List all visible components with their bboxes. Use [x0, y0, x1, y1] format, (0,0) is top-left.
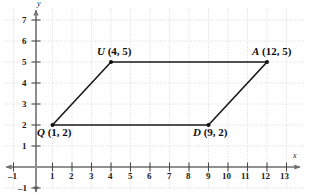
x-tick-label-3: 3 — [89, 172, 94, 181]
x-tick-label-neg1: –1 — [8, 172, 17, 181]
y-tick-label-5: 5 — [22, 58, 27, 67]
parallelogram-quad — [53, 62, 268, 125]
vertex-label-a: A (12, 5) — [252, 46, 291, 57]
x-axis-label: x — [293, 152, 297, 160]
coordinate-plane-svg — [0, 0, 310, 195]
vertex-label-q-name: Q — [37, 126, 45, 138]
y-tick-label-2: 2 — [22, 121, 27, 130]
y-tick-label-7: 7 — [22, 16, 27, 25]
x-tick-label-8: 8 — [186, 172, 191, 181]
x-tick-label-11: 11 — [241, 172, 250, 181]
vertex-label-u-name: U — [97, 45, 105, 57]
x-tick-label-5: 5 — [128, 172, 133, 181]
x-tick-label-10: 10 — [222, 172, 231, 181]
x-tick-label-12: 12 — [261, 172, 270, 181]
x-tick-label-7: 7 — [167, 172, 172, 181]
x-tick-label-6: 6 — [147, 172, 152, 181]
vertex-point-a — [265, 60, 269, 64]
x-tick-label-2: 2 — [69, 172, 74, 181]
vertex-label-d-coords: (9, 2) — [204, 126, 228, 138]
y-tick-label-6: 6 — [22, 37, 27, 46]
vertex-label-a-name: A — [252, 45, 259, 57]
x-tick-label-1: 1 — [50, 172, 55, 181]
vertex-point-u — [109, 60, 113, 64]
y-axis-label: y — [37, 0, 41, 8]
y-tick-label-4: 4 — [22, 79, 27, 88]
y-tick-label-neg1: –1 — [18, 184, 27, 193]
y-tick-label-3: 3 — [22, 100, 27, 109]
vertex-label-a-coords: (12, 5) — [262, 45, 291, 57]
x-tick-label-13: 13 — [280, 172, 289, 181]
vertex-label-d: D (9, 2) — [193, 127, 228, 138]
vertex-label-q: Q (1, 2) — [37, 127, 72, 138]
vertex-label-u-coords: (4, 5) — [108, 45, 132, 57]
y-tick-label-1: 1 — [22, 142, 27, 151]
vertex-label-d-name: D — [193, 126, 201, 138]
coordinate-plane-figure: 7 6 5 4 3 2 1 –1 –1 1 2 3 4 5 6 7 8 9 10… — [0, 0, 310, 195]
vertex-label-u: U (4, 5) — [97, 46, 132, 57]
vertex-label-q-coords: (1, 2) — [48, 126, 72, 138]
x-tick-label-4: 4 — [108, 172, 113, 181]
x-tick-label-9: 9 — [206, 172, 211, 181]
